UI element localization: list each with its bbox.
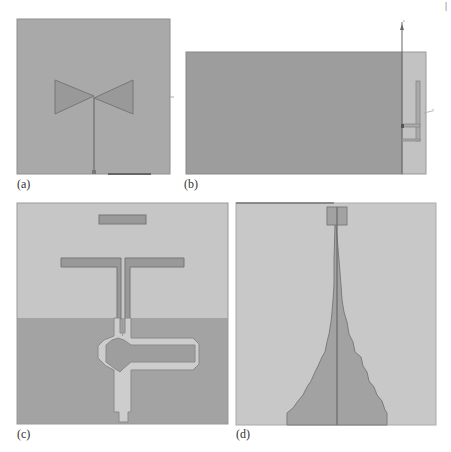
page-marker: | [445, 0, 447, 11]
panel-b-feed-port [401, 124, 404, 128]
panel-d-label: (d) [236, 427, 250, 442]
panel-b-feed-vertical [416, 81, 420, 141]
panel-c-director [99, 215, 146, 224]
panel-c [17, 203, 228, 424]
panel-b-feed-horizontal-bottom [402, 139, 420, 141]
panel-b-z-label: z [403, 18, 405, 23]
panel-b-z-axis-arrow [400, 24, 404, 30]
panel-b-label: (b) [184, 177, 198, 192]
panel-c-label: (c) [17, 427, 30, 442]
panel-a [17, 19, 174, 175]
antenna-figure: z y [0, 0, 451, 452]
panel-b: z y [186, 18, 434, 174]
panel-a-label: (a) [17, 177, 30, 192]
panel-b-y-label: y [432, 107, 434, 112]
panel-b-ground-plane [186, 52, 402, 174]
panel-d [236, 203, 436, 425]
panel-a-feed-port [92, 170, 96, 174]
panel-b-feed-horizontal-top [402, 124, 420, 127]
panel-a-bottom-bar [108, 173, 151, 175]
panel-b-substrate-strip [402, 52, 426, 174]
